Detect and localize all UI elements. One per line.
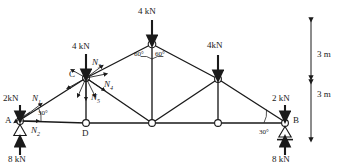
dimension-label-lower: 3 m	[317, 90, 331, 99]
load-label-apex: 4 kN	[138, 7, 156, 16]
truss-diagram-figure: A D B C 4 kN 4 kN 4kN 2kN 2 kN 8 kN 8 kN…	[0, 0, 339, 167]
roller-support-b-icon	[279, 127, 291, 138]
joint-b	[282, 120, 289, 127]
angle-label-apex-left: 60°	[134, 51, 144, 58]
node-label-a: A	[5, 116, 12, 125]
n4-subscript: 4	[110, 85, 113, 91]
dimension-label-upper: 3 m	[317, 50, 331, 59]
member-force-label-n4: N4	[104, 80, 113, 91]
joint-f	[215, 120, 222, 127]
pin-support-a-icon	[14, 125, 26, 136]
load-label-right-reaction: 8 kN	[272, 155, 290, 164]
member-a-c	[20, 78, 86, 120]
truss-drawing-canvas	[0, 0, 339, 167]
vector-c-left	[68, 78, 86, 88]
angle-label-support-a: 30°	[38, 110, 48, 117]
member-e-g	[152, 79, 218, 123]
n2-subscript: 2	[37, 131, 40, 137]
n3-subscript: 3	[98, 63, 101, 69]
member-force-label-n5: N5	[91, 93, 100, 104]
load-label-joint-c: 4 kN	[72, 42, 90, 51]
member-force-label-n3: N3	[92, 58, 101, 69]
load-label-left-applied: 2kN	[3, 94, 19, 103]
node-label-d: D	[82, 129, 89, 138]
node-label-c: C	[69, 70, 75, 79]
load-label-right-applied: 2 kN	[272, 94, 290, 103]
load-label-left-reaction: 8 kN	[8, 155, 26, 164]
angle-label-apex-right: 60°	[155, 51, 165, 58]
load-label-joint-g: 4kN	[207, 41, 223, 50]
n5-subscript: 5	[97, 98, 100, 104]
apex-left-value: 60	[134, 50, 141, 58]
apex-right-value: 60	[155, 50, 162, 58]
arc-support-b	[264, 110, 267, 123]
node-label-b: B	[293, 116, 299, 125]
joint-e	[149, 120, 156, 127]
angle-label-support-b: 30°	[259, 129, 269, 136]
supports	[14, 125, 293, 140]
n1-subscript: 1	[38, 99, 41, 105]
joint-d	[83, 120, 90, 127]
support-b-value: 30	[259, 128, 266, 136]
joint-top	[148, 40, 156, 48]
member-force-label-n1: N1	[32, 94, 41, 105]
truss-members	[20, 44, 285, 123]
member-force-label-n2: N2	[31, 126, 40, 137]
joint-g	[215, 76, 222, 83]
support-a-value: 30	[38, 109, 45, 117]
